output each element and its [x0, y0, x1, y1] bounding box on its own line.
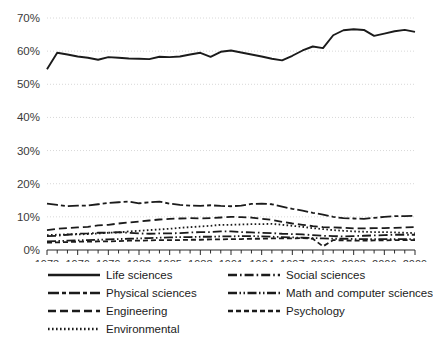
x-tick-label: 2009 — [403, 258, 427, 262]
y-tick-label: 10% — [17, 211, 40, 223]
x-tick-label: 2006 — [372, 258, 396, 262]
x-tick-label: 1994 — [249, 258, 273, 262]
legend-swatch-line — [228, 287, 280, 299]
y-axis-tick-labels: 0%10%20%30%40%50%60%70% — [17, 12, 40, 256]
legend-swatch-line — [48, 305, 100, 317]
x-tick-label: 1973 — [35, 258, 59, 262]
legend-swatch-line — [228, 305, 280, 317]
legend-column-right: Social sciencesMath and computer science… — [228, 266, 428, 320]
series-lines — [47, 29, 415, 246]
y-tick-label: 60% — [17, 45, 40, 57]
legend-column-left: Life sciencesPhysical sciencesEngineerin… — [48, 266, 218, 338]
legend-item[interactable]: Environmental — [48, 320, 218, 338]
y-tick-label: 0% — [23, 244, 40, 256]
legend-item[interactable]: Life sciences — [48, 266, 218, 284]
legend-item[interactable]: Math and computer sciences — [228, 284, 428, 302]
x-tick-label: 1976 — [65, 258, 89, 262]
legend-swatch-line — [48, 269, 100, 281]
x-tick-label: 1982 — [127, 258, 151, 262]
legend-swatch-line — [228, 269, 280, 281]
x-tick-label: 1997 — [280, 258, 304, 262]
y-tick-label: 30% — [17, 145, 40, 157]
x-tick-label: 1979 — [96, 258, 120, 262]
legend-item[interactable]: Engineering — [48, 302, 218, 320]
y-tick-label: 20% — [17, 178, 40, 190]
x-axis-tick-labels: 1973197619791982198519881991199419972000… — [35, 258, 427, 262]
x-axis-ticks — [47, 250, 415, 255]
series-line — [47, 29, 415, 69]
legend-item[interactable]: Physical sciences — [48, 284, 218, 302]
legend-label: Psychology — [286, 305, 345, 317]
legend-item[interactable]: Psychology — [228, 302, 428, 320]
line-chart-svg: 0%10%20%30%40%50%60%70% 1973197619791982… — [0, 0, 430, 262]
legend-label: Social sciences — [286, 269, 365, 281]
y-tick-label: 50% — [17, 78, 40, 90]
legend-swatch-line — [48, 287, 100, 299]
y-tick-label: 70% — [17, 12, 40, 24]
gridlines — [47, 18, 415, 217]
x-tick-label: 2003 — [341, 258, 365, 262]
chart-legend: Life sciencesPhysical sciencesEngineerin… — [0, 266, 430, 340]
x-tick-label: 2000 — [311, 258, 335, 262]
legend-label: Math and computer sciences — [286, 287, 433, 299]
x-tick-label: 1991 — [219, 258, 243, 262]
y-tick-label: 40% — [17, 111, 40, 123]
legend-swatch-line — [48, 323, 100, 335]
legend-label: Environmental — [106, 323, 180, 335]
x-tick-label: 1985 — [157, 258, 181, 262]
legend-label: Physical sciences — [106, 287, 197, 299]
legend-item[interactable]: Social sciences — [228, 266, 428, 284]
legend-label: Life sciences — [106, 269, 172, 281]
x-tick-label: 1988 — [188, 258, 212, 262]
plot-area: 0%10%20%30%40%50%60%70% 1973197619791982… — [0, 0, 430, 262]
legend-label: Engineering — [106, 305, 167, 317]
